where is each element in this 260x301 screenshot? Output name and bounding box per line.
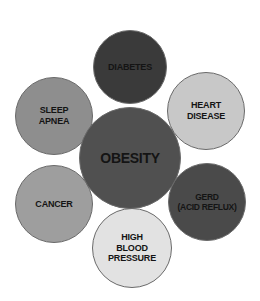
- heart-disease-label: HEART DISEASE: [187, 100, 225, 122]
- sleep-apnea-label: SLEEP APNEA: [39, 105, 70, 127]
- obesity-label: OBESITY: [100, 150, 159, 167]
- obesity-comorbidity-diagram: DIABETES HEART DISEASE GERD (ACID REFLUX…: [0, 0, 260, 301]
- diabetes-circle: DIABETES: [93, 30, 167, 104]
- obesity-center-circle: OBESITY: [79, 107, 181, 209]
- cancer-circle: CANCER: [15, 165, 93, 243]
- diabetes-label: DIABETES: [108, 62, 152, 73]
- heart-disease-circle: HEART DISEASE: [167, 72, 245, 150]
- high-blood-pressure-circle: HIGH BLOOD PRESSURE: [92, 208, 172, 288]
- gerd-label: GERD (ACID REFLUX): [178, 192, 237, 212]
- cancer-label: CANCER: [35, 199, 72, 210]
- high-blood-pressure-label: HIGH BLOOD PRESSURE: [108, 232, 156, 264]
- gerd-circle: GERD (ACID REFLUX): [168, 163, 246, 241]
